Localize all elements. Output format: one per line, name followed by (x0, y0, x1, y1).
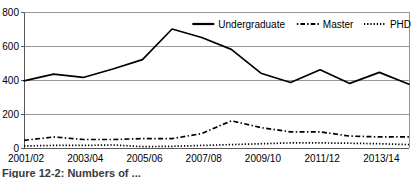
line-chart: 0200400600800 2001/022003/042005/062007/… (0, 0, 417, 178)
y-tick-label-200: 200 (2, 109, 19, 120)
y-tick-label-0: 0 (13, 143, 19, 154)
x-tick-label-1: 2003/04 (67, 153, 104, 164)
x-tick-label-6: 2013/14 (363, 153, 400, 164)
x-tick-label-4: 2009/10 (245, 153, 282, 164)
x-tick-label-0: 2001/02 (8, 153, 45, 164)
x-tick-label-5: 2011/12 (304, 153, 340, 164)
legend-label-undergraduate: Undergraduate (218, 19, 285, 30)
y-axis-tick-labels: 0200400600800 (2, 7, 19, 154)
x-tick-label-3: 2007/08 (186, 153, 223, 164)
figure-container: 0200400600800 2001/022003/042005/062007/… (0, 0, 417, 178)
figure-caption-strip: Figure 12-2: Numbers of ... (0, 168, 417, 178)
y-tick-label-800: 800 (2, 7, 19, 18)
figure-caption: Figure 12-2: Numbers of ... (2, 168, 141, 178)
y-tick-label-400: 400 (2, 75, 19, 86)
x-axis-tick-labels: 2001/022003/042005/062007/082009/102011/… (8, 153, 400, 164)
legend-label-master: Master (323, 19, 354, 30)
y-tick-label-600: 600 (2, 41, 19, 52)
x-tick-label-2: 2005/06 (126, 153, 163, 164)
legend-label-phd: PHD (390, 19, 411, 30)
